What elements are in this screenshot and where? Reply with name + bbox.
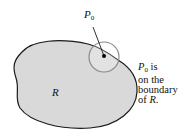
note-line-4-suffix: . <box>156 94 159 105</box>
point-label-subscript: 0 <box>91 14 95 22</box>
boundary-note: P0 is on the boundary of R. <box>138 62 192 105</box>
note-line-4-prefix: of <box>138 94 149 105</box>
point-label-symbol: P <box>84 8 91 20</box>
point-label: P0 <box>84 10 94 24</box>
region-label: R <box>52 88 59 98</box>
point-p0 <box>102 54 106 58</box>
note-line-1-rest: is <box>148 61 158 72</box>
note-line-4: of R. <box>138 95 192 105</box>
